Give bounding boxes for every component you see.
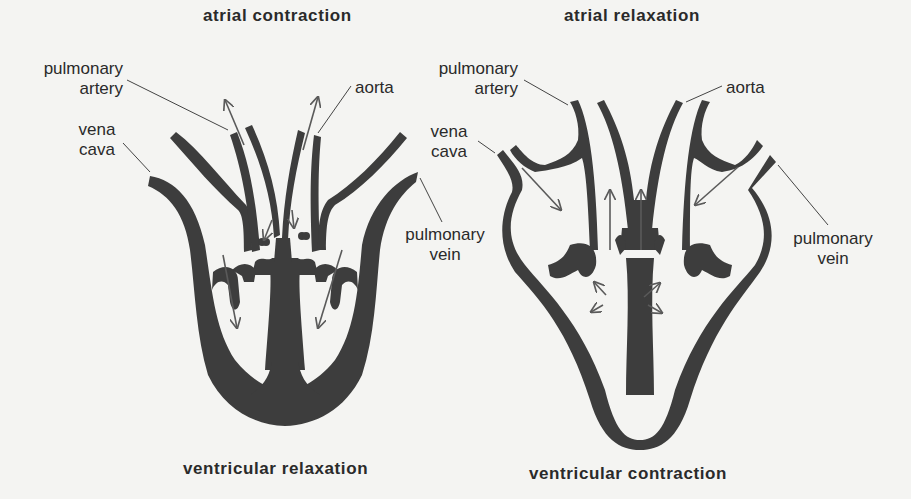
right-heart-diagram <box>497 100 776 450</box>
label-pulmonary-artery: pulmonary artery <box>33 59 123 99</box>
left-septum <box>265 270 305 370</box>
left-top-title: atrial contraction <box>203 6 352 26</box>
label-aorta: aorta <box>355 78 394 98</box>
label-pulmonary-vein: pulmonary vein <box>400 225 490 265</box>
label-aorta: aorta <box>726 78 765 98</box>
left-heart-diagram <box>148 125 418 426</box>
right-bottom-title: ventricular contraction <box>529 464 727 484</box>
left-bottom-title: ventricular relaxation <box>183 459 368 479</box>
right-top-title: atrial relaxation <box>564 6 700 26</box>
right-septum <box>626 258 654 395</box>
label-pulmonary-artery: pulmonary artery <box>428 59 518 99</box>
label-vena-cava: vena cava <box>424 122 474 162</box>
label-pulmonary-vein: pulmonary vein <box>788 229 878 269</box>
label-vena-cava: vena cava <box>72 120 122 160</box>
